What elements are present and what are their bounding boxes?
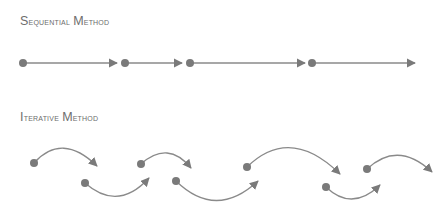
sequential-node: [121, 59, 129, 67]
iterative-arrow: [85, 178, 149, 196]
process-diagram: [0, 0, 445, 219]
iterative-node: [81, 179, 89, 187]
sequential-node: [19, 59, 27, 67]
iterative-flow: [30, 148, 432, 201]
iterative-arrow: [141, 153, 191, 168]
iterative-node: [137, 160, 145, 168]
sequential-flow: [19, 59, 415, 67]
iterative-arrow: [34, 148, 97, 166]
iterative-arrow: [367, 155, 432, 172]
iterative-node: [172, 177, 180, 185]
iterative-node: [322, 183, 330, 191]
iterative-arrow: [247, 148, 340, 174]
iterative-arrow: [176, 181, 258, 201]
sequential-node: [308, 59, 316, 67]
iterative-arrow: [326, 185, 380, 199]
sequential-node: [186, 59, 194, 67]
iterative-node: [243, 163, 251, 171]
iterative-node: [30, 159, 38, 167]
iterative-node: [363, 165, 371, 173]
